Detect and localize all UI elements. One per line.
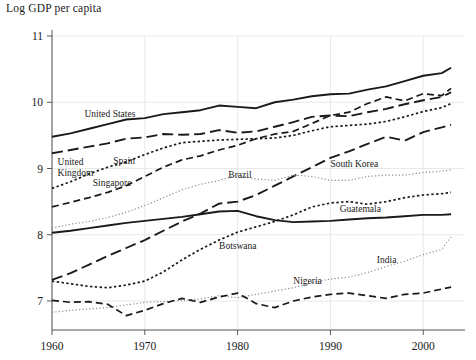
xtick-label-1960: 1960 — [41, 340, 64, 352]
series-label-united-states: United States — [84, 109, 135, 119]
ytick-label-8: 8 — [37, 229, 43, 241]
series-label-singapore: Singapore — [93, 178, 132, 188]
series-label-spain: Spain — [113, 156, 135, 166]
xtick-label-1970: 1970 — [133, 340, 156, 352]
ytick-label-10: 10 — [32, 96, 44, 108]
xtick-label-1980: 1980 — [226, 340, 249, 352]
series-label-india: India — [377, 255, 397, 265]
series-line-guatemala — [52, 211, 451, 233]
series-label-united-kingdom: UnitedKingdom — [58, 157, 95, 178]
ytick-label-7: 7 — [37, 295, 43, 307]
series-label-botswana: Botswana — [219, 241, 257, 251]
chart-container: Log GDP per capita 789101119601970198019… — [0, 0, 476, 360]
series-line-singapore — [52, 88, 451, 207]
series-label-guatemala: Guatemala — [340, 204, 382, 214]
ytick-label-11: 11 — [32, 30, 43, 42]
series-label-nigeria: Nigeria — [293, 276, 322, 286]
series-label-brazil: Brazil — [228, 170, 252, 180]
line-chart-plot: 789101119601970198019902000United States… — [0, 0, 476, 360]
xtick-label-2000: 2000 — [412, 340, 435, 352]
series-label-south-korea: South Korea — [330, 159, 379, 169]
ytick-label-9: 9 — [37, 163, 43, 175]
xtick-label-1990: 1990 — [319, 340, 342, 352]
